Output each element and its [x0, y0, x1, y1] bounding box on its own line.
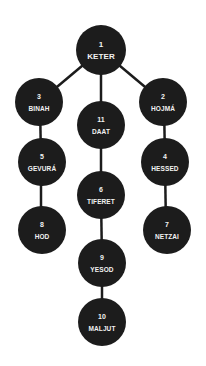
node-yesod: 9 YESOD — [78, 239, 126, 287]
node-number: 11 — [97, 115, 104, 124]
node-number: 5 — [40, 152, 44, 161]
node-number: 8 — [40, 220, 44, 229]
node-label: YESOD — [90, 266, 113, 274]
node-label: GEVURÁ — [28, 165, 56, 173]
node-number: 7 — [165, 220, 169, 229]
node-label: BINAH — [28, 105, 49, 113]
node-netzai: 7 NETZAI — [143, 206, 191, 254]
node-number: 10 — [98, 312, 106, 321]
node-number: 1 — [99, 40, 103, 49]
node-number: 4 — [163, 152, 167, 161]
node-daat: 11 DAAT — [77, 101, 125, 149]
node-hojma: 2 HOJMÁ — [139, 78, 187, 126]
node-label: HOJMÁ — [151, 105, 175, 113]
node-keter: 1 KETER — [76, 25, 126, 75]
node-label: HESSED — [151, 165, 178, 173]
node-label: HOD — [35, 233, 50, 241]
node-number: 9 — [100, 253, 104, 262]
node-number: 2 — [161, 92, 165, 101]
node-hod: 8 HOD — [18, 206, 66, 254]
node-label: MALJUT — [89, 325, 116, 333]
node-label: KETER — [87, 53, 115, 61]
node-number: 6 — [99, 185, 103, 194]
node-label: NETZAI — [155, 233, 179, 241]
node-hessed: 4 HESSED — [141, 138, 189, 186]
node-gevura: 5 GEVURÁ — [18, 138, 66, 186]
node-label: DAAT — [92, 128, 110, 136]
node-maljut: 10 MALJUT — [78, 298, 126, 346]
node-binah: 3 BINAH — [15, 78, 63, 126]
node-tiferet: 6 TIFERET — [77, 171, 125, 219]
node-number: 3 — [37, 92, 41, 101]
node-label: TIFERET — [87, 198, 115, 206]
